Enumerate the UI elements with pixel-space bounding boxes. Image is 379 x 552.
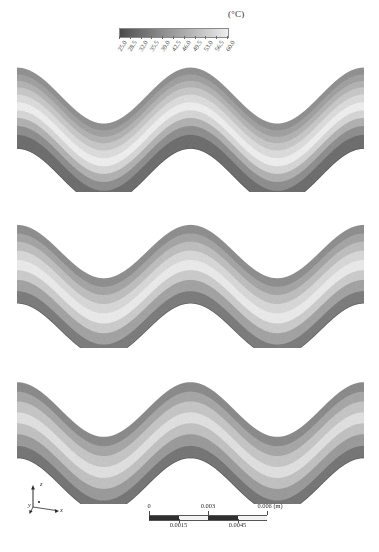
colorbar-tick-label: 53.0	[202, 39, 214, 52]
axes-triad-icon	[22, 481, 78, 519]
coordinate-axes-indicator: z y x	[22, 481, 78, 519]
scale-bar-tick	[267, 511, 268, 515]
contour-canvas-b	[17, 218, 364, 348]
scale-bar-bottom-labels: 0.00150.0045	[149, 521, 289, 531]
axis-label-x: x	[60, 506, 63, 513]
contour-canvas-a	[17, 62, 364, 192]
colorbar-tick-label: 60.0	[223, 39, 235, 52]
colorbar-tick-label: 25.0	[115, 39, 127, 52]
colorbar-unit-label: (°C)	[228, 9, 244, 19]
colorbar-tick-label: 39.0	[159, 39, 171, 52]
scale-bar-top-label: 0.006 (m)	[257, 502, 282, 509]
scale-bar-bottom-label: 0.0015	[170, 521, 188, 528]
contour-panel-a: (a)	[0, 62, 379, 214]
length-scale-bar: 00.0030.006 (m) 0.00150.0045	[140, 500, 379, 536]
colorbar-tick-label: 46.0	[180, 39, 192, 52]
colorbar-tick-label: 28.5	[126, 39, 138, 52]
colorbar-tick-label: 56.5	[213, 39, 225, 52]
colorbar-tick-labels: 25.028.532.035.539.042.546.049.553.056.5…	[119, 39, 227, 61]
colorbar-tick-label: 49.5	[191, 39, 203, 52]
scale-bar-bottom-label: 0.0045	[229, 521, 247, 528]
colorbar-tick-label: 32.0	[137, 39, 149, 52]
axis-label-y: y	[28, 501, 31, 508]
scale-bar-top-label: 0.003	[201, 502, 215, 509]
figure-root: (°C) 25.028.532.035.539.042.546.049.553.…	[0, 0, 379, 552]
contour-plot-a	[17, 62, 364, 192]
axis-label-z: z	[40, 480, 43, 487]
colorbar-tick-label: 42.5	[169, 39, 181, 52]
colorbar-group: (°C) 25.028.532.035.539.042.546.049.553.…	[0, 0, 379, 60]
contour-plot-b	[17, 218, 364, 348]
scale-bar-top-label: 0	[147, 502, 150, 509]
colorbar-tick-label: 35.5	[148, 39, 160, 52]
contour-panel-b: (b)	[0, 218, 379, 370]
colorbar-tick	[227, 36, 228, 39]
